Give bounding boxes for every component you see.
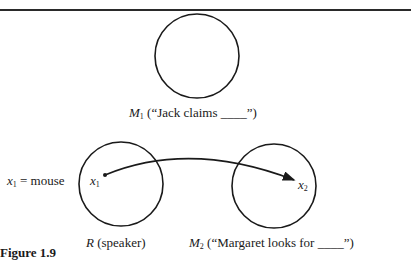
- m2-label: M2 (“Margaret looks for ____”): [189, 236, 354, 251]
- figure-caption: Figure 1.9: [0, 245, 56, 261]
- connector-arrow: [105, 159, 294, 180]
- x1-definition: x1 = mouse: [7, 174, 65, 189]
- x1-label: x1: [90, 174, 100, 189]
- mental-spaces-diagram: [0, 0, 411, 266]
- x2-label: x2: [298, 178, 308, 193]
- space-m1-circle: [155, 14, 239, 98]
- r-label: R (speaker): [86, 236, 146, 249]
- m1-label: M1 (“Jack claims ____”): [129, 106, 257, 121]
